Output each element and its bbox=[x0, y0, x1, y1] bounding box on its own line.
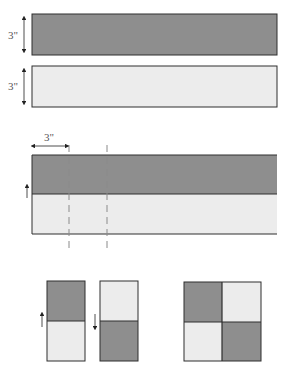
cut-width-label: 3" bbox=[44, 131, 54, 143]
dark-strip bbox=[32, 14, 277, 55]
dark-strip-dimension-label: 3" bbox=[8, 29, 18, 41]
step1-strips: 3" 3" bbox=[8, 14, 277, 107]
four-patch-block bbox=[184, 282, 261, 361]
two-patch-unit-a bbox=[42, 281, 85, 361]
step2-strip-set: 3" bbox=[27, 131, 277, 248]
quilt-diagram: 3" 3" 3" bbox=[0, 0, 293, 380]
light-strip-dimension-label: 3" bbox=[8, 80, 18, 92]
light-strip bbox=[32, 66, 277, 107]
two-patch-unit-b bbox=[95, 281, 138, 361]
step3-units bbox=[42, 281, 261, 361]
